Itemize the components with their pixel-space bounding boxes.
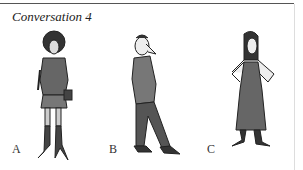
right-rule xyxy=(294,4,295,170)
figure-c-label: C xyxy=(207,142,215,157)
figure-b-illustration xyxy=(130,34,190,164)
section-title: Conversation 4 xyxy=(12,9,92,25)
figure-a-label: A xyxy=(12,142,21,157)
figure-a-illustration xyxy=(28,30,83,165)
figure-b-label: B xyxy=(109,142,117,157)
figure-c-illustration xyxy=(222,30,287,165)
top-rule xyxy=(0,3,294,4)
